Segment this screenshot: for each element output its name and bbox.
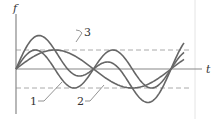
x-axis-label: t (206, 63, 211, 76)
curve-3-label: 3 (84, 26, 91, 39)
label-2-leader (85, 85, 104, 101)
wave-diagram: f t 3 1 2 (0, 0, 222, 119)
curve-1-label: 1 (30, 95, 37, 108)
curve-2-label: 2 (77, 95, 84, 108)
y-axis-label: f (12, 2, 19, 15)
label-3-leader (76, 30, 82, 42)
label-1-leader (38, 82, 62, 101)
